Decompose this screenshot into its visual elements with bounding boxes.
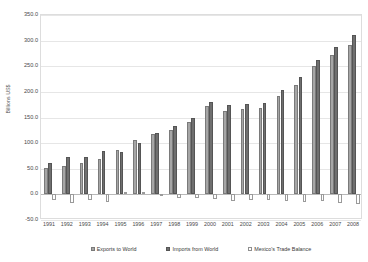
bar-exports [241, 109, 245, 194]
bar-group [77, 15, 95, 218]
legend-swatch-icon [91, 247, 95, 251]
bar-group [59, 15, 77, 218]
bar-balance [356, 194, 360, 204]
bar-imports [66, 157, 70, 194]
bar-balance [231, 194, 235, 200]
x-axis-tick-label: 1993 [76, 221, 94, 227]
bar-balance [88, 194, 92, 200]
bar-exports [205, 106, 209, 194]
x-axis-tick-label: 1997 [147, 221, 165, 227]
legend-item-label: Exports to World [97, 246, 137, 252]
bars-layer [41, 15, 361, 218]
bar-imports [209, 102, 213, 195]
legend-swatch-icon [166, 247, 170, 251]
y-axis-tick-label: 100.0 [12, 139, 38, 145]
bar-group [220, 15, 238, 218]
bar-group [345, 15, 363, 218]
legend-item[interactable]: Imports from World [166, 246, 218, 252]
bar-group [41, 15, 59, 218]
bar-imports [245, 104, 249, 195]
bar-balance [321, 194, 325, 201]
bar-group [113, 15, 131, 218]
bar-exports [223, 111, 227, 194]
x-axis-tick-label: 1996 [129, 221, 147, 227]
bar-balance [195, 194, 199, 198]
bar-group [256, 15, 274, 218]
x-axis-tick-label: 1991 [40, 221, 58, 227]
plot-area [40, 14, 362, 219]
x-axis-tick-label: 2003 [255, 221, 273, 227]
bar-group [309, 15, 327, 218]
y-axis-tick-labels: 350.0300.0250.0200.0150.0100.050.00.0-50… [12, 14, 38, 219]
bar-exports [312, 66, 316, 194]
bar-group [274, 15, 292, 218]
bar-exports [133, 140, 137, 194]
bar-imports [352, 35, 356, 194]
x-axis-tick-labels: 1991199219931994199519961997199819992000… [40, 221, 362, 233]
x-axis-tick-label: 2005 [290, 221, 308, 227]
bar-imports [48, 163, 52, 195]
x-axis-tick-label: 2007 [326, 221, 344, 227]
bar-imports [138, 143, 142, 195]
y-axis-tick-label: 0.0 [12, 190, 38, 196]
x-axis-tick-label: 1998 [165, 221, 183, 227]
x-axis-tick-label: 1992 [58, 221, 76, 227]
trade-bar-chart: Billions US$ 350.0300.0250.0200.0150.010… [0, 0, 368, 262]
bar-balance [249, 194, 253, 200]
y-axis-title: Billions US$ [5, 69, 11, 129]
bar-exports [98, 159, 102, 195]
bar-balance [70, 194, 74, 203]
y-axis-tick-label: 350.0 [12, 11, 38, 17]
x-axis-tick-label: 1994 [94, 221, 112, 227]
x-axis-tick-label: 2004 [273, 221, 291, 227]
x-axis-tick-label: 2000 [201, 221, 219, 227]
bar-balance [338, 194, 342, 202]
y-axis-tick-label: 150.0 [12, 114, 38, 120]
bar-group [327, 15, 345, 218]
bar-balance [124, 192, 128, 194]
bar-exports [277, 96, 281, 194]
legend-item[interactable]: Mexico's Trade Balance [248, 246, 311, 252]
y-axis-tick-label: 200.0 [12, 88, 38, 94]
bar-exports [330, 55, 334, 194]
bar-group [95, 15, 113, 218]
x-axis-tick-label: 2001 [219, 221, 237, 227]
x-axis-tick-label: 2008 [344, 221, 362, 227]
x-axis-tick-label: 2002 [237, 221, 255, 227]
bar-exports [151, 134, 155, 194]
y-axis-tick-label: -50.0 [12, 216, 38, 222]
bar-group [166, 15, 184, 218]
bar-imports [173, 126, 177, 194]
x-axis-tick-label: 1995 [112, 221, 130, 227]
bar-group [202, 15, 220, 218]
y-axis-tick-label: 250.0 [12, 62, 38, 68]
bar-balance [267, 194, 271, 199]
bar-imports [155, 133, 159, 195]
x-axis-tick-label: 2006 [308, 221, 326, 227]
bar-group [238, 15, 256, 218]
bar-balance [142, 192, 146, 195]
bar-balance [160, 194, 164, 196]
y-axis-tick-label: 300.0 [12, 37, 38, 43]
bar-exports [80, 163, 84, 194]
bar-imports [316, 60, 320, 195]
bar-balance [177, 194, 181, 198]
chart-legend: Exports to WorldImports from WorldMexico… [40, 243, 362, 255]
bar-group [148, 15, 166, 218]
bar-imports [281, 90, 285, 194]
bar-imports [84, 157, 88, 194]
legend-item[interactable]: Exports to World [91, 246, 137, 252]
bar-exports [62, 166, 66, 195]
y-axis-tick-label: 50.0 [12, 165, 38, 171]
bar-group [291, 15, 309, 218]
bar-balance [213, 194, 217, 199]
bar-exports [294, 85, 298, 195]
bar-imports [263, 103, 267, 195]
x-axis-tick-label: 1999 [183, 221, 201, 227]
bar-imports [299, 77, 303, 194]
bar-balance [285, 194, 289, 200]
bar-imports [334, 47, 338, 195]
bar-balance [106, 194, 110, 202]
legend-item-label: Mexico's Trade Balance [254, 246, 311, 252]
bar-exports [348, 45, 352, 195]
